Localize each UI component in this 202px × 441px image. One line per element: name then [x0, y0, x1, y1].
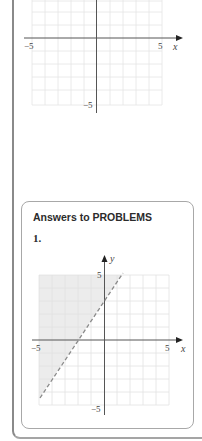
graph-answer-x-max-label: 5	[165, 343, 170, 353]
graph-answer-x-min-label: −5	[31, 343, 41, 353]
graph-answer-x-axis-label: x	[180, 343, 186, 354]
graph-answer-y-max-label: 5	[97, 270, 102, 280]
graph-answer: −5 5 x y 5 −5	[0, 0, 202, 441]
graph-answer-y-min-label: −5	[91, 404, 101, 414]
graph-answer-y-axis-label: y	[109, 253, 115, 264]
graph-answer-y-arrow-icon	[102, 255, 108, 262]
